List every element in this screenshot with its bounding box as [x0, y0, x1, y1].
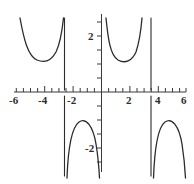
x-tick-label-2: 2 [126, 95, 132, 106]
chart-plot-area [0, 0, 194, 184]
y-tick-label-2: 2 [88, 31, 94, 42]
x-tick-label-6: 6 [181, 95, 187, 106]
chart-figure: -6 -4 -2 2 4 6 2 -2 [0, 0, 194, 184]
branch-left-lower-arch [67, 121, 100, 178]
x-tick-label-minus4: -4 [38, 95, 47, 106]
branch-right-upper-u [106, 18, 142, 62]
branch-left-upper-u [20, 18, 64, 61]
branch-right-lower-arch [154, 121, 186, 178]
x-tick-label-minus2: -2 [67, 95, 76, 106]
x-tick-label-4: 4 [155, 95, 161, 106]
y-tick-label-minus2: -2 [85, 143, 94, 154]
x-tick-label-minus6: -6 [9, 95, 18, 106]
